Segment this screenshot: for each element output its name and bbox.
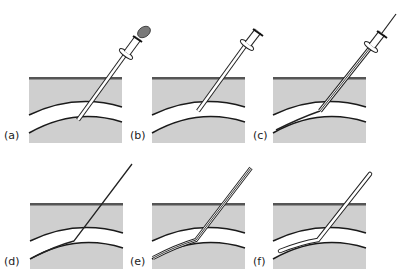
panel-c (273, 14, 396, 143)
panel-f (273, 174, 370, 269)
panel-b (152, 29, 263, 143)
panel-label-e: (e) (130, 255, 145, 268)
panel-label-b: (b) (130, 129, 146, 142)
panel-label-d: (d) (4, 255, 20, 268)
panel-label-a: (a) (4, 129, 19, 142)
panel-label-f: (f) (253, 255, 265, 268)
seldinger-technique-diagram: (a) (b) (c) (d) (e) (f) (0, 0, 398, 279)
panel-label-c: (c) (253, 129, 268, 142)
panel-d (30, 164, 132, 269)
panel-a (29, 24, 153, 143)
panel-e (152, 168, 251, 269)
